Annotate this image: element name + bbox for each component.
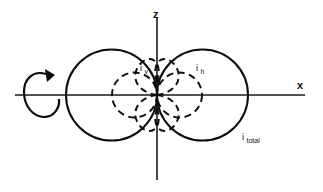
i-h-label-base: i <box>196 62 198 73</box>
i-total-label: i total <box>242 131 260 144</box>
circular-arrow-head <box>45 69 55 82</box>
i-h-label: i h <box>196 62 205 75</box>
i-v-label-subscript: v <box>145 68 149 75</box>
i-total-label-subscript: total <box>247 137 261 144</box>
labels-group: z x i v i h i total <box>140 8 304 144</box>
i-total-label-base: i <box>242 131 244 142</box>
x-axis-label: x <box>297 79 304 91</box>
i-v-label-base: i <box>140 62 142 73</box>
rotation-about-x-axis-icon <box>24 69 59 117</box>
radiation-pattern-figure: z x i v i h i total <box>0 0 323 192</box>
z-axis-label: z <box>153 8 159 20</box>
axes-group <box>15 18 305 180</box>
i-h-label-subscript: h <box>201 68 205 75</box>
figure-root: z x i v i h i total <box>0 0 323 192</box>
